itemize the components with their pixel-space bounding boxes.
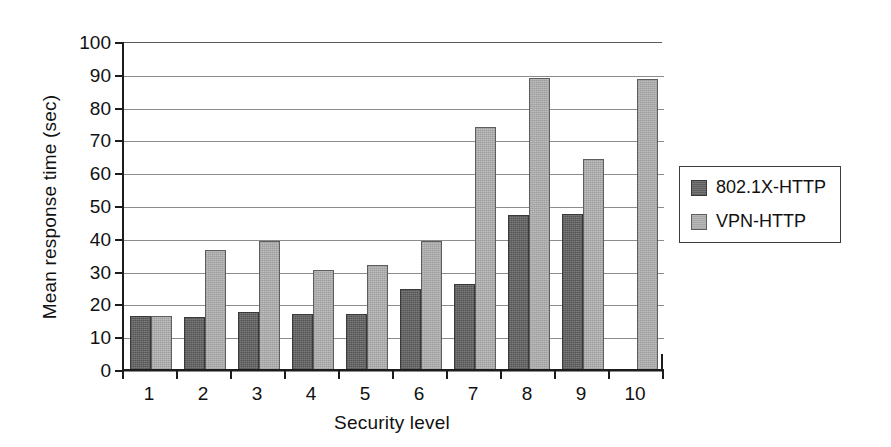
y-axis-tick-label: 80 (90, 98, 111, 120)
y-axis-tick-mark (115, 140, 124, 142)
x-axis-tick-mark (500, 370, 502, 379)
x-axis-tick-label-3: 3 (252, 383, 263, 405)
y-axis-title: Mean response time (sec) (39, 27, 61, 387)
bar-group-4 (286, 42, 340, 370)
x-axis-tick-mark (338, 370, 340, 379)
x-axis-tick-mark (122, 370, 124, 379)
y-axis-tick-label: 100 (79, 32, 111, 54)
x-axis-tick-mark (554, 370, 556, 379)
y-axis-tick-mark (115, 304, 124, 306)
bar-group-5 (340, 42, 394, 370)
y-axis-tick-mark (115, 75, 124, 77)
bar-802-1x-http-level-3[interactable] (238, 312, 259, 370)
bar-group-6 (394, 42, 448, 370)
legend-item-802-1x-http[interactable]: 802.1X-HTTP (691, 177, 826, 198)
bar-vpn-http-level-4[interactable] (313, 270, 334, 370)
bar-chart-figure: Mean response time (sec) 010203040506070… (0, 0, 891, 447)
x-axis-tick-label-5: 5 (360, 383, 371, 405)
bar-vpn-http-level-7[interactable] (475, 127, 496, 370)
y-axis-tick-mark (115, 108, 124, 110)
x-axis-tick-label-7: 7 (468, 383, 479, 405)
bar-group-3 (232, 42, 286, 370)
bar-vpn-http-level-3[interactable] (259, 241, 280, 370)
y-axis-tick-label: 90 (90, 65, 111, 87)
bar-802-1x-http-level-8[interactable] (508, 215, 529, 370)
bar-group-9 (556, 42, 610, 370)
x-axis-tick-label-1: 1 (144, 383, 155, 405)
bar-802-1x-http-level-2[interactable] (184, 317, 205, 370)
bar-vpn-http-level-10[interactable] (637, 79, 658, 370)
chart-legend: 802.1X-HTTPVPN-HTTP (679, 166, 841, 243)
y-axis-tick-label: 40 (90, 229, 111, 251)
y-axis-tick-label: 70 (90, 130, 111, 152)
y-axis-tick-mark (115, 272, 124, 274)
bar-group-10 (610, 42, 664, 370)
x-axis-tick-label-8: 8 (522, 383, 533, 405)
x-axis-tick-mark (662, 370, 664, 379)
bar-group-2 (178, 42, 232, 370)
x-axis-tick-label-2: 2 (198, 383, 209, 405)
gridline-y-0 (124, 371, 664, 372)
x-axis-tick-label-10: 10 (624, 383, 645, 405)
x-axis-tick-mark (284, 370, 286, 379)
y-axis-tick-mark (115, 206, 124, 208)
y-axis-tick-label: 0 (100, 360, 111, 382)
x-axis-tick-label-4: 4 (306, 383, 317, 405)
x-axis-tick-mark (608, 370, 610, 379)
y-axis-tick-label: 20 (90, 294, 111, 316)
bar-group-7 (448, 42, 502, 370)
bar-group-8 (502, 42, 556, 370)
y-axis-tick-label: 50 (90, 196, 111, 218)
x-axis-tick-mark (176, 370, 178, 379)
legend-label: 802.1X-HTTP (716, 177, 826, 198)
bar-vpn-http-level-5[interactable] (367, 265, 388, 370)
y-axis-tick-mark (115, 173, 124, 175)
bar-802-1x-http-level-4[interactable] (292, 314, 313, 370)
legend-swatch-icon (691, 180, 707, 196)
bar-vpn-http-level-9[interactable] (583, 159, 604, 370)
y-axis-tick-mark (115, 239, 124, 241)
bar-802-1x-http-level-6[interactable] (400, 289, 421, 370)
x-axis-tick-mark (230, 370, 232, 379)
legend-item-vpn-http[interactable]: VPN-HTTP (691, 211, 826, 232)
plot-area: 0102030405060708090100 (122, 42, 662, 370)
bar-802-1x-http-level-9[interactable] (562, 214, 583, 370)
bar-vpn-http-level-8[interactable] (529, 78, 550, 370)
y-axis-tick-label: 30 (90, 262, 111, 284)
legend-label: VPN-HTTP (716, 211, 806, 232)
bar-vpn-http-level-6[interactable] (421, 241, 442, 370)
x-axis-tick-label-6: 6 (414, 383, 425, 405)
x-axis-tick-mark (392, 370, 394, 379)
y-axis-tick-label: 60 (90, 163, 111, 185)
bar-group-1 (124, 42, 178, 370)
x-axis-tick-label-9: 9 (576, 383, 587, 405)
bar-802-1x-http-level-1[interactable] (130, 316, 151, 370)
bar-802-1x-http-level-7[interactable] (454, 284, 475, 370)
bar-802-1x-http-level-5[interactable] (346, 314, 367, 370)
x-axis-title: Security level (122, 412, 662, 434)
y-axis-tick-mark (115, 337, 124, 339)
bar-vpn-http-level-1[interactable] (151, 316, 172, 370)
bar-vpn-http-level-2[interactable] (205, 250, 226, 370)
y-axis-tick-label: 10 (90, 327, 111, 349)
x-axis-right-cap (661, 354, 663, 370)
legend-swatch-icon (691, 214, 707, 230)
x-axis-tick-mark (446, 370, 448, 379)
y-axis-top-cap (122, 42, 124, 56)
